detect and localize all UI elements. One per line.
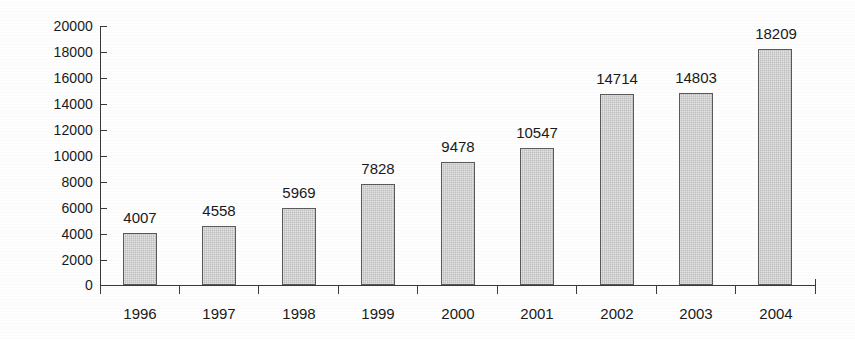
x-axis-label-2000: 2000 [413, 305, 503, 322]
x-axis-label-2001: 2001 [492, 305, 582, 322]
plot-area: 20000 18000 16000 14000 12000 10000 8000… [0, 0, 855, 339]
y-axis-label-16000: 16000 [0, 71, 93, 85]
bar-value-2001: 10547 [492, 125, 582, 141]
y-axis-label-20000: 20000 [0, 19, 93, 33]
bar-2001[interactable] [520, 148, 554, 285]
y-axis-label-10000: 10000 [0, 149, 93, 163]
bar-value-2003: 14803 [651, 70, 741, 86]
y-axis-label-2000: 2000 [0, 253, 93, 267]
y-axis-tick [100, 52, 107, 53]
x-axis-end-cap [815, 279, 816, 286]
x-axis-label-1998: 1998 [254, 305, 344, 322]
y-axis-label-8000: 8000 [0, 175, 93, 189]
bar-2003[interactable] [679, 93, 713, 285]
bar-2002[interactable] [600, 94, 634, 285]
bar-1996[interactable] [123, 233, 157, 285]
x-axis-tick [258, 286, 259, 294]
x-axis-tick [338, 286, 339, 294]
bar-value-1998: 5969 [254, 185, 344, 201]
bar-value-2004: 18209 [731, 26, 821, 42]
y-axis-tick [100, 104, 107, 105]
bar-value-1999: 7828 [333, 161, 423, 177]
x-axis-tick [815, 286, 816, 294]
x-axis-label-2003: 2003 [651, 305, 741, 322]
y-axis-tick [100, 156, 107, 157]
x-axis-tick [576, 286, 577, 294]
y-axis-label-0: 0 [0, 278, 93, 292]
x-axis-tick [656, 286, 657, 294]
y-axis-tick [100, 260, 107, 261]
y-axis-tick [100, 78, 107, 79]
x-axis-tick [100, 286, 101, 294]
x-axis-label-1996: 1996 [95, 305, 185, 322]
x-axis-label-1997: 1997 [174, 305, 264, 322]
x-axis-label-2004: 2004 [731, 305, 821, 322]
y-axis-tick [100, 26, 107, 27]
x-axis-tick [179, 286, 180, 294]
x-axis-label-2002: 2002 [572, 305, 662, 322]
bar-1999[interactable] [361, 184, 395, 285]
y-axis-label-14000: 14000 [0, 97, 93, 111]
bar-value-1997: 4558 [174, 203, 264, 219]
y-axis-tick [100, 234, 107, 235]
bar-2004[interactable] [758, 49, 792, 285]
y-axis-label-12000: 12000 [0, 123, 93, 137]
y-axis-label-18000: 18000 [0, 45, 93, 59]
x-axis-label-1999: 1999 [333, 305, 423, 322]
bar-1997[interactable] [202, 226, 236, 285]
x-axis-tick [735, 286, 736, 294]
bar-value-2000: 9478 [413, 139, 503, 155]
x-axis-line [100, 285, 816, 286]
y-axis-tick [100, 130, 107, 131]
bar-1998[interactable] [282, 208, 316, 285]
bar-2000[interactable] [441, 162, 475, 285]
y-axis-tick [100, 208, 107, 209]
y-axis-label-6000: 6000 [0, 201, 93, 215]
bar-value-1996: 4007 [95, 210, 185, 226]
y-axis-tick [100, 182, 107, 183]
x-axis-tick [417, 286, 418, 294]
x-axis-tick [497, 286, 498, 294]
bar-value-2002: 14714 [572, 71, 662, 87]
y-axis-label-4000: 4000 [0, 227, 93, 241]
bar-chart: 20000 18000 16000 14000 12000 10000 8000… [0, 0, 855, 339]
